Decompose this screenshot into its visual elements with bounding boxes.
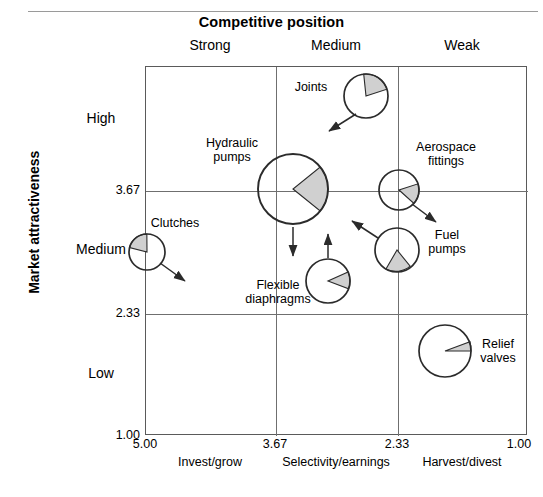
x-category-weak: Weak: [397, 37, 527, 53]
x-tick-233: 2.33: [367, 437, 427, 451]
bubble-label-fuel-pumps: Fuel pumps: [420, 228, 474, 256]
gridline-horizontal-233: [146, 314, 528, 315]
x-sublabel-invest-grow: Invest/grow: [145, 455, 275, 469]
bubble-label-relief-valves: Relief valves: [472, 337, 524, 365]
y-category-high: High: [56, 110, 146, 126]
gridline-horizontal-367: [146, 191, 528, 192]
bubble-label-clutches: Clutches: [143, 216, 207, 230]
x-tick-500: 5.00: [115, 437, 175, 451]
gridline-vertical-233: [398, 67, 399, 436]
y-tick-233: 2.33: [96, 306, 140, 320]
x-category-strong: Strong: [145, 37, 275, 53]
y-axis-title: Market attractiveness: [26, 142, 43, 302]
bubble-label-aerospace-fittings: Aerospace fittings: [405, 140, 487, 168]
bubble-label-joints: Joints: [282, 80, 340, 94]
x-sublabel-selectivity-earnings: Selectivity/earnings: [268, 455, 404, 469]
x-sublabel-harvest-divest: Harvest/divest: [397, 455, 527, 469]
x-category-medium: Medium: [275, 37, 397, 53]
x-tick-367: 3.67: [245, 437, 305, 451]
x-tick-100: 1.00: [489, 437, 543, 451]
bubble-label-hydraulic-pumps: Hydraulic pumps: [195, 136, 269, 164]
chart-title: Competitive position: [0, 14, 543, 30]
y-category-medium: Medium: [56, 241, 146, 257]
y-category-low: Low: [56, 365, 146, 381]
y-tick-367: 3.67: [96, 183, 140, 197]
bubble-label-flexible-diaphragms: Flexible diaphragms: [240, 278, 316, 306]
gridline-vertical-367: [276, 67, 277, 436]
